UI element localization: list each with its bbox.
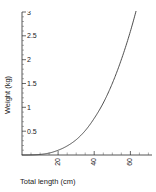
y-tick-label-0: 0.5 bbox=[27, 128, 37, 135]
y-axis-title: Weight (kg) bbox=[3, 75, 12, 114]
x-tick-label-0: 20 bbox=[54, 158, 61, 166]
y-tick-label-2: 1.5 bbox=[27, 80, 37, 87]
y-tick-label-1: 1 bbox=[27, 104, 31, 111]
x-tick-label-1: 40 bbox=[90, 158, 97, 166]
y-tick-label-4: 2.5 bbox=[27, 32, 37, 39]
x-tick-label-2: 60 bbox=[126, 158, 133, 166]
top-mask bbox=[0, 0, 156, 11]
chart-svg: 0.5 1 1.5 2 2.5 3 20 40 60 Total length … bbox=[0, 0, 156, 192]
chart-container: 0.5 1 1.5 2 2.5 3 20 40 60 Total length … bbox=[0, 0, 156, 192]
x-axis-title: Total length (cm) bbox=[20, 177, 76, 186]
y-tick-label-3: 2 bbox=[27, 56, 31, 63]
